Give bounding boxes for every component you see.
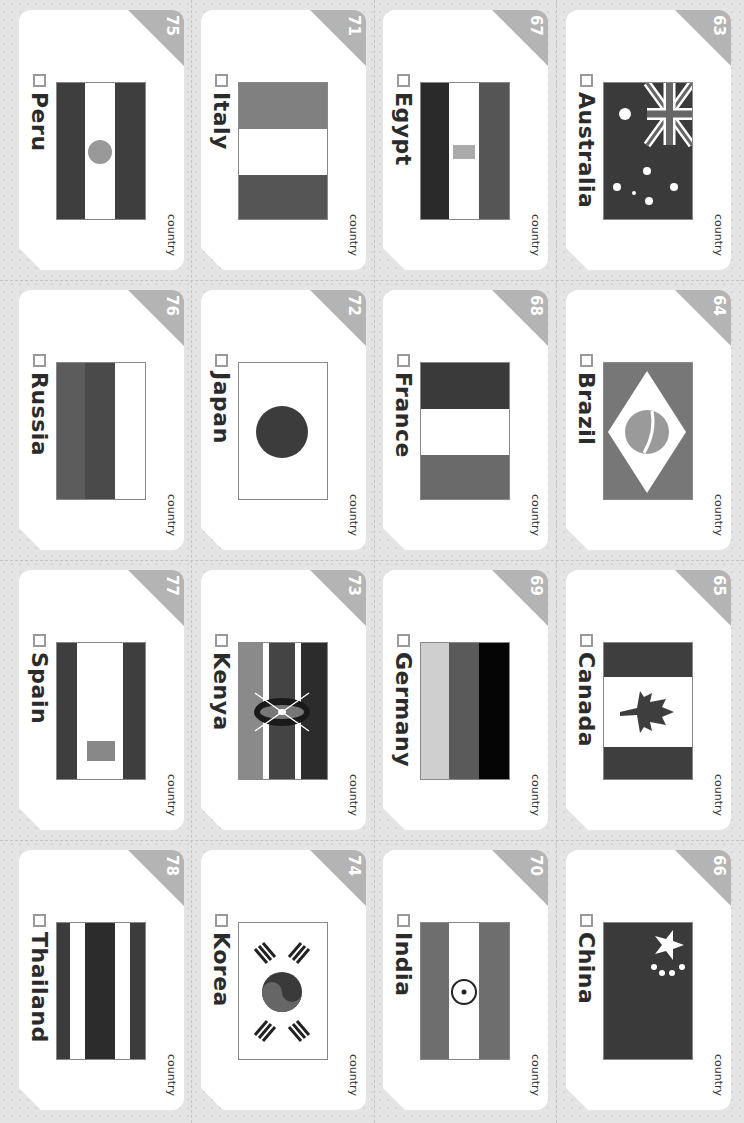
country-card-spain: 77 Spain country [19, 570, 184, 830]
flag-russia-icon [56, 362, 146, 500]
checkbox[interactable] [397, 354, 410, 367]
number-badge: 73 [310, 570, 366, 626]
cut-line [191, 0, 192, 1123]
flag-italy-icon [238, 82, 328, 220]
country-name: Thailand [27, 932, 52, 1043]
card-type-label: country [712, 774, 725, 816]
card-type-label: country [529, 1054, 542, 1096]
country-name: Russia [27, 372, 52, 456]
checkbox[interactable] [33, 634, 46, 647]
checkbox[interactable] [580, 634, 593, 647]
edge-print-text [0, 855, 14, 1115]
country-name: Canada [574, 652, 599, 747]
card-type-label: country [712, 214, 725, 256]
checkbox[interactable] [33, 914, 46, 927]
flag-india-icon [420, 922, 510, 1060]
number-badge: 69 [492, 570, 548, 626]
country-card-egypt: 67 Egypt country [383, 10, 548, 270]
country-name: Spain [27, 652, 52, 724]
card-slot: 78 Thailand country [19, 850, 184, 1110]
checkbox[interactable] [33, 354, 46, 367]
country-name: Germany [391, 652, 416, 767]
card-type-label: country [347, 214, 360, 256]
country-card-germany: 69 Germany country [383, 570, 548, 830]
checkbox[interactable] [33, 74, 46, 87]
card-slot: 67 Egypt country [383, 10, 548, 270]
flag-germany-icon [420, 642, 510, 780]
country-card-thailand: 78 Thailand country [19, 850, 184, 1110]
card-type-label: country [529, 494, 542, 536]
card-slot: 77 Spain country [19, 570, 184, 830]
card-slot: 71 Italy country [201, 10, 366, 270]
flag-china-icon [603, 922, 693, 1060]
country-card-russia: 76 Russia country [19, 290, 184, 550]
number-badge: 65 [675, 570, 731, 626]
checkbox[interactable] [215, 914, 228, 927]
card-type-label: country [712, 494, 725, 536]
country-name: Japan [209, 372, 234, 444]
country-card-peru: 75 Peru country [19, 10, 184, 270]
checkbox[interactable] [397, 914, 410, 927]
number-badge: 70 [492, 850, 548, 906]
cut-line [0, 840, 744, 841]
card-slot: 72 Japan country [201, 290, 366, 550]
country-card-china: 66 China country [566, 850, 731, 1110]
card-slot: 63 Australia country [566, 10, 731, 270]
card-slot: 74 Korea country [201, 850, 366, 1110]
flag-kenya-icon [238, 642, 328, 780]
number-badge: 64 [675, 290, 731, 346]
country-card-australia: 63 Australia country [566, 10, 731, 270]
card-type-label: country [347, 494, 360, 536]
card-type-label: country [347, 1054, 360, 1096]
country-card-japan: 72 Japan country [201, 290, 366, 550]
checkbox[interactable] [215, 354, 228, 367]
flag-australia-icon [603, 82, 693, 220]
country-name: France [391, 372, 416, 458]
checkbox[interactable] [580, 914, 593, 927]
country-card-brazil: 64 Brazil country [566, 290, 731, 550]
number-badge: 66 [675, 850, 731, 906]
number-badge: 74 [310, 850, 366, 906]
country-name: Kenya [209, 652, 234, 731]
checkbox[interactable] [397, 74, 410, 87]
cut-line [374, 0, 375, 1123]
country-name: India [391, 932, 416, 996]
card-type-label: country [165, 774, 178, 816]
country-card-italy: 71 Italy country [201, 10, 366, 270]
country-card-france: 68 France country [383, 290, 548, 550]
flag-thailand-icon [56, 922, 146, 1060]
number-badge: 63 [675, 10, 731, 66]
cut-line [556, 0, 557, 1123]
card-type-label: country [529, 214, 542, 256]
flag-spain-icon [56, 642, 146, 780]
flag-peru-icon [56, 82, 146, 220]
number-badge: 72 [310, 290, 366, 346]
country-card-kenya: 73 Kenya country [201, 570, 366, 830]
checkbox[interactable] [580, 354, 593, 367]
flag-japan-icon [238, 362, 328, 500]
country-name: Brazil [574, 372, 599, 445]
checkbox[interactable] [215, 634, 228, 647]
checkbox[interactable] [397, 634, 410, 647]
number-badge: 75 [128, 10, 184, 66]
card-type-label: country [347, 774, 360, 816]
flag-canada-icon [603, 642, 693, 780]
cut-line [0, 280, 744, 281]
card-slot: 75 Peru country [19, 10, 184, 270]
flag-korea-icon [238, 922, 328, 1060]
number-badge: 71 [310, 10, 366, 66]
country-name: Italy [209, 92, 234, 150]
card-slot: 70 India country [383, 850, 548, 1110]
number-badge: 78 [128, 850, 184, 906]
card-type-label: country [165, 494, 178, 536]
card-type-label: country [165, 1054, 178, 1096]
country-name: Peru [27, 92, 52, 152]
checkbox[interactable] [215, 74, 228, 87]
country-name: China [574, 932, 599, 1004]
checkbox[interactable] [580, 74, 593, 87]
card-type-label: country [712, 1054, 725, 1096]
card-slot: 76 Russia country [19, 290, 184, 550]
number-badge: 67 [492, 10, 548, 66]
card-type-label: country [529, 774, 542, 816]
country-name: Egypt [391, 92, 416, 166]
